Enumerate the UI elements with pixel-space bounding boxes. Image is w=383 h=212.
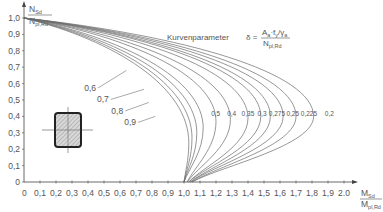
curve-delta-0-3 xyxy=(24,18,261,182)
leader-line xyxy=(138,116,155,122)
y-tick-label: 0,7 xyxy=(8,62,20,72)
annotation-symbol: δ = xyxy=(246,33,258,42)
svg-text:Npl,Rd: Npl,Rd xyxy=(263,39,282,49)
curve-label: 0,275 xyxy=(269,110,286,117)
x-tick-label: 2.0 xyxy=(338,188,350,198)
svg-text:MSd: MSd xyxy=(361,188,375,199)
curve-labels: 0,50,40,350,30,2750,250,2250,2 xyxy=(211,110,334,117)
y-tick-label: 0,6 xyxy=(8,79,20,89)
curve-leader-label: 0,8 xyxy=(111,106,123,116)
x-label-numerator: M xyxy=(361,188,368,198)
leader-line xyxy=(98,70,126,88)
y-tick-label: 0,1 xyxy=(8,161,20,171)
x-tick-label: 0,9 xyxy=(162,188,174,198)
y-tick-label: 0,9 xyxy=(8,29,20,39)
curve-label: 0,25 xyxy=(286,110,299,117)
svg-text:Aa·fy/γa: Aa·fy/γa xyxy=(262,28,288,38)
annotation-label: Kurvenparameter xyxy=(167,33,229,42)
x-tick-label: 1,3 xyxy=(226,188,238,198)
x-tick-label: 0,6 xyxy=(114,188,126,198)
x-tick-label: 1,2 xyxy=(210,188,222,198)
leader-line xyxy=(111,89,144,99)
x-tick-label: 0,3 xyxy=(66,188,78,198)
x-label-numerator-sub: Sd xyxy=(368,193,375,199)
leader-labels: 0,60,70,80,9 xyxy=(84,70,155,127)
x-ticks: 00,10,20,30,40,50,60,70,80,91,01,11,21,3… xyxy=(22,181,350,199)
curve-label: 0,225 xyxy=(301,110,318,117)
cross-section-icon xyxy=(42,107,93,153)
x-tick-label: 0,5 xyxy=(98,188,110,198)
annotation-den-sub: pl,Rd xyxy=(269,43,282,49)
x-tick-label: 0,8 xyxy=(146,188,158,198)
x-origin-label: 0 xyxy=(22,188,27,198)
curve-leader-label: 0,9 xyxy=(124,117,136,127)
x-tick-label: 1,9 xyxy=(322,188,334,198)
svg-text:Mpl,Rd: Mpl,Rd xyxy=(361,199,381,210)
curve-leader-label: 0,6 xyxy=(84,83,96,93)
x-tick-label: 1,7 xyxy=(290,188,302,198)
curve-label: 0,3 xyxy=(258,110,267,117)
y-tick-label: 0,3 xyxy=(8,128,20,138)
y-tick-label: 0 xyxy=(15,177,20,187)
x-label-denominator-sub: pl,Rd xyxy=(368,204,381,210)
x-axis-label: MSd Mpl,Rd xyxy=(360,188,382,210)
leader-line xyxy=(125,102,149,110)
curve-delta-0-4 xyxy=(24,18,230,182)
y-tick-label: 0,4 xyxy=(8,111,20,121)
x-tick-label: 0,7 xyxy=(130,188,142,198)
curve-delta-0-5 xyxy=(24,18,216,182)
x-tick-label: 0,4 xyxy=(82,188,94,198)
x-tick-label: 1,8 xyxy=(306,188,318,198)
x-tick-label: 0,2 xyxy=(50,188,62,198)
y-ticks: 00,10,20,30,40,50,60,70,80,91,0 xyxy=(8,13,24,187)
x-tick-label: 1,0 xyxy=(178,188,190,198)
y-axis-arrow-icon xyxy=(22,1,26,7)
svg-text:NSd: NSd xyxy=(29,4,42,15)
x-label-denominator: M xyxy=(361,199,368,209)
y-tick-label: 0,2 xyxy=(8,144,20,154)
curve-label: 0,5 xyxy=(211,110,220,117)
curve-label: 0,2 xyxy=(325,110,334,117)
x-tick-label: 0,1 xyxy=(34,188,46,198)
y-tick-label: 0,5 xyxy=(8,95,20,105)
x-tick-label: 1,1 xyxy=(194,188,206,198)
curve-delta-0-35 xyxy=(24,18,248,182)
y-label-numerator-sub: Sd xyxy=(35,9,42,15)
x-tick-label: 1,4 xyxy=(242,188,254,198)
curve-label: 0,35 xyxy=(242,110,255,117)
x-tick-label: 1,5 xyxy=(258,188,270,198)
x-axis-arrow-icon xyxy=(352,180,358,184)
curve-label: 0,4 xyxy=(227,110,236,117)
curve-leader-label: 0,7 xyxy=(97,94,109,104)
annotation-num-sub3: a xyxy=(284,32,288,38)
y-tick-label: 0,8 xyxy=(8,46,20,56)
x-tick-label: 1,6 xyxy=(274,188,286,198)
interaction-diagram: 00,10,20,30,40,50,60,70,80,91,01,11,21,3… xyxy=(0,0,383,212)
y-tick-label: 1,0 xyxy=(8,13,20,23)
